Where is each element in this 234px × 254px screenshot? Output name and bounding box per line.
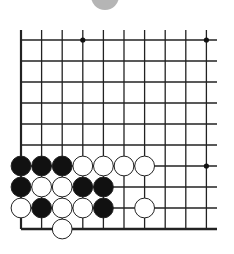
black-stone-icon xyxy=(32,156,52,176)
white-stone-icon xyxy=(73,156,93,176)
board-grid xyxy=(21,30,217,229)
black-stone-icon xyxy=(52,156,72,176)
star-point-icon xyxy=(204,163,209,168)
white-stone-icon xyxy=(52,198,72,218)
black-stone-icon xyxy=(94,177,114,197)
top-partial-stone-marker xyxy=(91,0,119,10)
white-stone-icon xyxy=(94,156,114,176)
black-stone-icon xyxy=(11,177,31,197)
go-board xyxy=(0,0,234,254)
black-stone-icon xyxy=(32,198,52,218)
black-stone-icon xyxy=(11,156,31,176)
white-stone-icon xyxy=(135,198,155,218)
black-stone-icon xyxy=(73,177,93,197)
star-point-icon xyxy=(204,37,209,42)
white-stone-icon xyxy=(52,177,72,197)
white-stone-icon xyxy=(135,156,155,176)
star-point-icon xyxy=(80,37,85,42)
white-stone-icon xyxy=(32,177,52,197)
white-stone-icon xyxy=(52,219,72,239)
white-stone-icon xyxy=(73,198,93,218)
partial-stone-icon xyxy=(91,0,119,10)
white-stone-icon xyxy=(114,156,134,176)
white-stone-icon xyxy=(11,198,31,218)
black-stone-icon xyxy=(94,198,114,218)
